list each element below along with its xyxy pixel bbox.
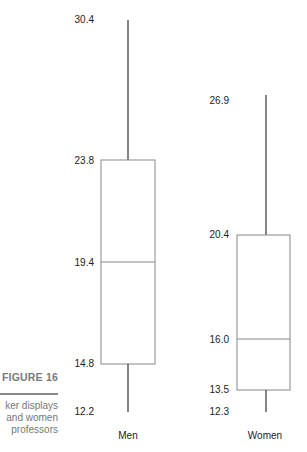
men-q1-label: 14.8 xyxy=(54,358,94,369)
caption-line-2: and women xyxy=(5,412,58,424)
men-median-label: 19.4 xyxy=(54,257,94,268)
caption-line-3: professors xyxy=(5,424,58,436)
men-max-label: 30.4 xyxy=(54,14,94,25)
women-q1-label: 13.5 xyxy=(189,384,229,395)
box-men xyxy=(101,20,155,412)
figure-caption: ker displays and women professors xyxy=(5,400,58,436)
category-label-women: Women xyxy=(235,430,295,441)
men-min-label: 12.2 xyxy=(54,406,94,417)
box-women-iqr xyxy=(237,235,290,390)
figure-label: FIGURE 16 xyxy=(2,371,58,383)
box-women xyxy=(237,95,290,412)
women-median-label: 16.0 xyxy=(189,334,229,345)
women-q3-label: 20.4 xyxy=(189,229,229,240)
figure-rule xyxy=(0,393,58,395)
women-max-label: 26.9 xyxy=(189,95,229,106)
men-q3-label: 23.8 xyxy=(54,155,94,166)
women-min-label: 12.3 xyxy=(189,406,229,417)
box-plot xyxy=(0,0,307,452)
caption-line-1: ker displays xyxy=(5,400,58,412)
category-label-men: Men xyxy=(98,430,158,441)
